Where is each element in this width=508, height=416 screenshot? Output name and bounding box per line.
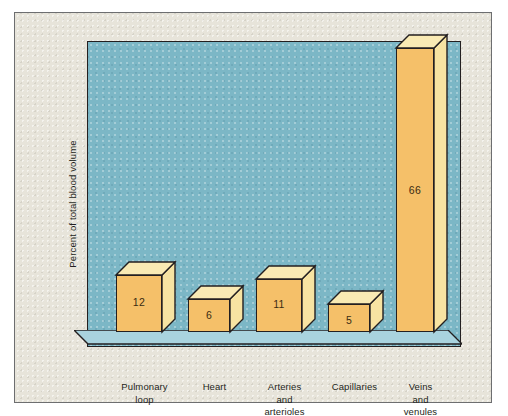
bar-value-label: 6 — [188, 309, 230, 321]
x-axis-label-5: Veinsandvenules — [376, 381, 466, 416]
bar-1: 12 — [116, 275, 162, 332]
bar-value-label: 11 — [256, 298, 302, 310]
bar-value-label: 66 — [396, 184, 434, 196]
bar-value-label: 5 — [328, 314, 370, 326]
bar-3: 11 — [256, 279, 302, 332]
bar-5: 66 — [396, 48, 434, 332]
chart-panel: Percent of total blood volume 12611566 P… — [14, 12, 492, 403]
bar-4: 5 — [328, 304, 370, 332]
plot-wrapper: 12611566 — [73, 29, 477, 375]
bar-value-label: 12 — [116, 296, 162, 308]
bar-2: 6 — [188, 299, 230, 332]
figure-root: Percent of total blood volume 12611566 P… — [0, 0, 508, 416]
plot-area: 12611566 — [87, 41, 461, 347]
x-axis-labels: PulmonaryloopHeartArteriesandarteriolesC… — [87, 381, 477, 416]
